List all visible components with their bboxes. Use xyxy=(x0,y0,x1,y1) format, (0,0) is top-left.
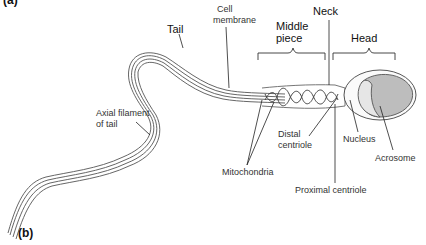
cell-membrane-leader xyxy=(226,27,229,88)
label-cell-membrane-line1: Cell xyxy=(217,4,233,14)
label-neck: Neck xyxy=(313,5,338,17)
mitochondria-leader-1 xyxy=(247,100,262,165)
label-acrosome: Acrosome xyxy=(375,153,416,163)
panel-label-b: (b) xyxy=(18,226,33,240)
label-distal-centriole-line2: centriole xyxy=(278,140,312,150)
sperm-diagram: (a) (b) Tail Cell membrane Middle piece … xyxy=(0,0,426,245)
label-proximal-centriole: Proximal centriole xyxy=(295,185,367,195)
label-middle-piece-line2: piece xyxy=(276,32,302,44)
tail-strands xyxy=(8,53,285,239)
middle-piece-bracket xyxy=(258,48,325,60)
panel-label-a: (a) xyxy=(3,0,18,7)
label-mitochondria: Mitochondria xyxy=(222,167,274,177)
label-axial-filament-line2: of tail xyxy=(96,119,118,129)
head-bracket xyxy=(333,48,395,60)
label-nucleus: Nucleus xyxy=(343,134,376,144)
label-cell-membrane-line2: membrane xyxy=(213,15,256,25)
label-middle-piece-line1: Middle xyxy=(276,20,308,32)
distal-centriole-leader xyxy=(309,98,337,136)
axial-filament-leader xyxy=(136,122,150,135)
label-axial-filament-line1: Axial filament xyxy=(96,108,150,118)
label-head: Head xyxy=(351,32,377,44)
label-distal-centriole-line1: Distal xyxy=(278,129,301,139)
tail-leader xyxy=(179,34,183,48)
mitochondria-leader-2 xyxy=(247,102,274,165)
label-tail: Tail xyxy=(167,23,184,35)
